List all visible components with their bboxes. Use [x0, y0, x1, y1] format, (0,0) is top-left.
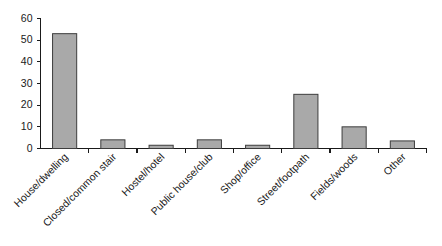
bar-chart: 0102030405060 House/dwellingClosed/commo… [0, 0, 442, 246]
bar [53, 34, 77, 149]
bar [246, 145, 270, 148]
y-tick-label: 20 [21, 98, 33, 110]
y-axis-group: 0102030405060 [21, 12, 41, 154]
bar [294, 94, 318, 148]
y-tick-label: 60 [21, 12, 33, 24]
y-tick-label: 30 [21, 77, 33, 89]
bars-group [53, 34, 415, 149]
x-tick-labels: House/dwellingClosed/common stairHostel/… [11, 150, 408, 229]
y-tick-labels: 0102030405060 [21, 12, 33, 154]
bar [390, 141, 414, 149]
y-tick-label: 50 [21, 33, 33, 45]
chart-canvas: 0102030405060 House/dwellingClosed/commo… [0, 0, 442, 246]
y-tick-label: 0 [27, 142, 33, 154]
x-axis-group: House/dwellingClosed/common stairHostel/… [11, 149, 426, 229]
bar [342, 127, 366, 149]
y-tick-label: 40 [21, 55, 33, 67]
bar [197, 140, 221, 149]
x-tick-label: Shop/office [218, 150, 264, 196]
x-tick-marks [89, 149, 427, 153]
y-tick-label: 10 [21, 120, 33, 132]
x-tick-label: Fields/woods [308, 150, 360, 202]
bar [101, 140, 125, 149]
bar [149, 145, 173, 148]
x-tick-label: Hostel/hotel [119, 150, 167, 198]
y-tick-marks [37, 19, 41, 149]
x-tick-label: Other [381, 150, 408, 177]
